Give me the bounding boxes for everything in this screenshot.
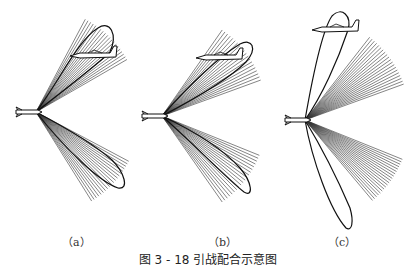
fuze-beam-upper-c: [305, 48, 381, 120]
fuze-beam-lower-b: [162, 116, 227, 198]
fuze-beam-upper-c: [305, 81, 403, 120]
missile-icon-b: [142, 114, 168, 118]
fuze-beam-lower-b: [162, 116, 232, 194]
fuze-beam-lower-b: [162, 116, 243, 183]
fuze-beam-lower-b: [162, 116, 249, 175]
fuze-beam-upper-c: [305, 45, 379, 120]
fuze-beam-upper-a: [36, 22, 91, 112]
fuze-beam-upper-a: [36, 57, 125, 112]
fuze-beam-upper-a: [36, 38, 110, 112]
fuze-beam-lower-a: [36, 112, 116, 180]
figure-caption: 图 3 - 18 引战配合示意图: [0, 250, 416, 267]
fuze-beam-lower-c: [305, 120, 397, 171]
aircraft-icon-c: [312, 20, 359, 32]
fuze-beam-lower-b: [162, 116, 230, 196]
fuze-beam-lower-b: [162, 116, 252, 170]
panel-label-a: （a）: [62, 233, 91, 249]
fuze-beam-lower-c: [305, 120, 382, 191]
fuze-beam-lower-b: [162, 116, 222, 202]
fuze-beam-upper-a: [36, 35, 108, 112]
fuze-beam-upper-b: [162, 71, 257, 116]
fuze-beam-upper-c: [305, 78, 401, 120]
fuze-beam-lower-b: [162, 116, 237, 190]
missile-icon-c: [285, 118, 311, 122]
panel-label-b: （b）: [208, 233, 237, 249]
fuze-beam-lower-c: [305, 120, 389, 183]
fuze-beam-upper-c: [305, 67, 396, 120]
fuze-beam-lower-a: [36, 112, 94, 199]
fuze-beam-upper-c: [305, 70, 397, 120]
fuze-beam-lower-c: [305, 120, 384, 189]
fuze-beam-lower-b: [162, 116, 247, 178]
fuze-beam-lower-a: [36, 112, 99, 196]
fuze-beam-upper-a: [36, 40, 112, 112]
fuze-beam-lower-a: [36, 112, 118, 178]
aircraft-icon-b: [196, 48, 243, 60]
fuze-beam-lower-c: [305, 120, 402, 159]
missile-icon-a: [16, 110, 42, 114]
fuze-beam-upper-b: [162, 51, 244, 116]
fuze-beam-lower-b: [162, 116, 235, 192]
fuze-beam-lower-a: [36, 112, 123, 171]
fuze-beam-upper-b: [162, 34, 228, 116]
fuze-beam-upper-a: [36, 21, 88, 112]
fuze-beam-lower-a: [36, 112, 92, 201]
fuze-beam-lower-b: [162, 116, 251, 172]
fuze-beam-upper-b: [162, 80, 261, 116]
fuze-beam-lower-c: [305, 120, 380, 193]
fuze-beam-lower-c: [305, 120, 401, 162]
fuze-beam-lower-a: [36, 112, 96, 198]
fuze-beam-upper-a: [36, 54, 124, 112]
panel-label-c: （c）: [328, 233, 356, 249]
fuze-beam-lower-a: [36, 112, 108, 189]
fuze-beam-lower-a: [36, 112, 119, 176]
fuze-beam-lower-b: [162, 116, 258, 158]
fuze-beam-lower-c: [305, 120, 386, 187]
fuze-beam-lower-b: [162, 116, 245, 180]
fuze-beam-lower-a: [36, 112, 121, 174]
fuze-beam-upper-c: [305, 62, 393, 120]
fuze-beam-lower-a: [36, 112, 126, 166]
fuze-beam-upper-c: [305, 43, 377, 120]
fuze-beam-upper-a: [36, 33, 106, 112]
